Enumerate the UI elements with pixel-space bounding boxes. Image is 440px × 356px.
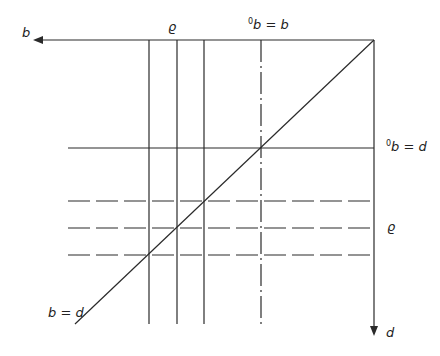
b-axis-arrowhead-icon [33,36,43,44]
axis-label-b: b [22,26,30,39]
diagonal-line [75,40,374,324]
label-text: b = d [391,139,427,154]
axis-label-d: d [386,326,394,339]
label-text: b = b [253,17,289,32]
label-diagonal-b-eq-d: b = d [48,306,84,319]
d-axis-arrowhead-icon [370,326,378,336]
label-rho-top: ϱ [168,20,176,33]
diagram-canvas [0,0,440,356]
label-b0-eq-b: 0b = b [248,18,289,31]
label-rho-right: ϱ [387,220,395,233]
label-b0-eq-d: 0b = d [386,140,427,153]
